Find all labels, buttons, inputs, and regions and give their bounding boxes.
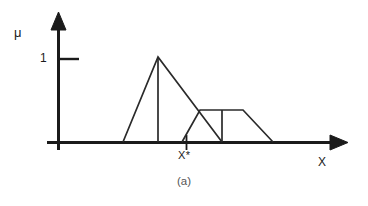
triangle-outline [123,57,222,142]
x-axis-label: X [318,156,326,168]
y-axis-arrowhead-icon [51,12,66,30]
x-axis-tick-label-xstar: X* [178,150,190,161]
fuzzy-membership-figure: μ 1 X* X (a) [0,0,368,206]
trapezoid-outline [182,110,273,142]
y-axis [51,12,66,150]
x-axis-arrowhead-icon [330,135,348,150]
y-axis-tick-label-one: 1 [40,52,47,64]
y-axis-label: μ [14,26,22,39]
figure-caption: (a) [0,176,368,188]
x-axis [47,135,348,150]
trapezoidal-membership-function [182,110,273,142]
triangular-membership-function [123,57,222,142]
